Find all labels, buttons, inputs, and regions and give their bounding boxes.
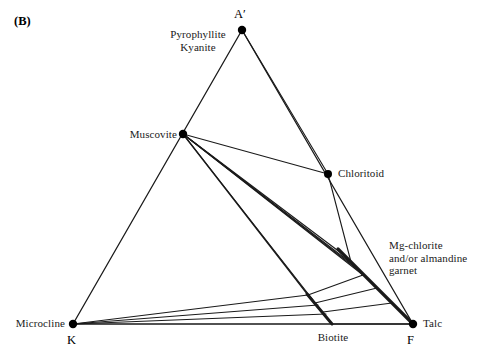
akf-ternary-diagram bbox=[0, 0, 482, 363]
label-chloritoid: Chloritoid bbox=[338, 167, 418, 180]
tieline-microcline-biotite-mid bbox=[73, 305, 318, 324]
tieline-biotite-mgchlorite-1 bbox=[308, 275, 363, 295]
node-apex-A bbox=[238, 26, 246, 34]
figure-root: (B) bbox=[0, 0, 482, 363]
label-pyrophyllite-kyanite: Pyrophyllite Kyanite bbox=[161, 28, 235, 53]
label-mg-chlorite-garnet: Mg-chlorite and/or almandine garnet bbox=[389, 239, 482, 277]
apex-label-K: K bbox=[67, 333, 76, 348]
band-biotite bbox=[307, 294, 332, 324]
label-biotite: Biotite bbox=[307, 331, 359, 344]
label-microcline: Microcline bbox=[0, 317, 65, 330]
label-talc: Talc bbox=[423, 317, 467, 330]
apex-label-F: F bbox=[407, 333, 414, 348]
label-muscovite: Muscovite bbox=[105, 128, 177, 141]
node-chloritoid bbox=[324, 170, 332, 178]
label-pyrophyllite-kyanite-text: Pyrophyllite Kyanite bbox=[170, 28, 226, 53]
node-talc bbox=[409, 320, 417, 328]
tieline-biotite-mgchlorite-3 bbox=[323, 303, 392, 312]
label-mg-chlorite-garnet-text: Mg-chlorite and/or almandine garnet bbox=[389, 239, 467, 276]
apex-label-A-prime: A′ bbox=[234, 7, 246, 22]
tieline-biotite-mgchlorite-2 bbox=[315, 288, 377, 303]
tieline-apexA-chloritoid bbox=[242, 30, 328, 174]
node-microcline bbox=[69, 320, 77, 328]
node-muscovite bbox=[179, 130, 187, 138]
